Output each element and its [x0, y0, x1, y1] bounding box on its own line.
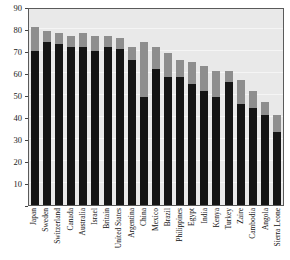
- y-axis-tick-label: 60: [14, 70, 23, 79]
- x-axis-tick-label: Cambodia: [249, 208, 257, 239]
- x-axis-tick: Egypt: [188, 208, 196, 260]
- x-axis-tick: Turkey: [225, 208, 233, 260]
- bar-segment-upper: [237, 80, 245, 104]
- bar-segment-upper: [91, 36, 99, 51]
- x-axis-tick: United States: [115, 208, 123, 260]
- x-axis-tick-label: Argentina: [128, 208, 136, 238]
- bar: [225, 71, 233, 205]
- bar-segment-upper: [116, 38, 124, 49]
- bar-segment-lower: [128, 60, 136, 205]
- bar-segment-lower: [79, 47, 87, 205]
- bar-segment-lower: [188, 84, 196, 205]
- bar-segment-lower: [31, 51, 39, 205]
- bar-segment-lower: [176, 77, 184, 205]
- x-axis-tick: Switzerland: [54, 208, 62, 260]
- bar-segment-upper: [261, 102, 269, 115]
- bar: [116, 38, 124, 205]
- y-axis-tick-label: 30: [14, 136, 23, 145]
- x-axis-tick: Philippines: [176, 208, 184, 260]
- x-axis-tick-label: Brazil: [164, 208, 172, 226]
- x-axis-tick-label: Canada: [67, 208, 75, 231]
- bar-segment-lower: [225, 82, 233, 205]
- bar-segment-lower: [67, 47, 75, 205]
- bar-segment-upper: [176, 60, 184, 78]
- bar: [31, 27, 39, 205]
- x-axis-tick-label: Egypt: [188, 208, 196, 226]
- bar-segment-upper: [140, 42, 148, 97]
- y-axis-tick-label: 40: [14, 114, 23, 123]
- bar-segment-lower: [249, 108, 257, 205]
- x-axis-tick: Cambodia: [249, 208, 257, 260]
- bar: [273, 115, 281, 205]
- bar-segment-upper: [164, 53, 172, 77]
- x-axis-tick-label: Kenya: [213, 208, 221, 228]
- x-axis-tick-label: Japan: [30, 208, 38, 225]
- x-axis-tick-label: Australia: [79, 208, 87, 236]
- bar-segment-upper: [212, 71, 220, 97]
- y-axis-tick-mark: [25, 206, 28, 207]
- bar: [188, 62, 196, 205]
- plot-area: [28, 8, 284, 206]
- bar-segment-lower: [152, 69, 160, 205]
- bar: [152, 47, 160, 205]
- bar-segment-upper: [55, 33, 63, 44]
- y-axis-tick-label: 70: [14, 48, 23, 57]
- bar: [200, 66, 208, 205]
- bar-segment-lower: [104, 47, 112, 205]
- bar-segment-upper: [152, 47, 160, 69]
- x-axis-tick: Mexico: [152, 208, 160, 260]
- bar-segment-upper: [249, 91, 257, 109]
- x-axis-tick-label: Israel: [91, 208, 99, 225]
- bar-segment-upper: [273, 115, 281, 133]
- x-axis-tick: Zaire: [237, 208, 245, 260]
- bar: [212, 71, 220, 205]
- bar: [128, 47, 136, 205]
- x-axis-tick: Sierra Leone: [274, 208, 282, 260]
- bar: [55, 33, 63, 205]
- bar-segment-lower: [91, 51, 99, 205]
- bar-segment-upper: [104, 36, 112, 47]
- bar: [249, 91, 257, 205]
- x-axis-tick: China: [140, 208, 148, 260]
- x-axis-tick-label: Philippines: [176, 208, 184, 242]
- bar: [237, 80, 245, 205]
- x-axis-tick: India: [201, 208, 209, 260]
- x-axis-tick: Kenya: [213, 208, 221, 260]
- bar: [164, 53, 172, 205]
- x-axis-tick: Israel: [91, 208, 99, 260]
- bar-segment-lower: [43, 42, 51, 205]
- bar: [140, 42, 148, 205]
- x-axis-tick-label: Switzerland: [54, 208, 62, 244]
- x-axis-tick-label: Turkey: [225, 208, 233, 229]
- bar-chart: 102030405060708090 JapanSwedenSwitzerlan…: [0, 0, 290, 260]
- y-axis: 102030405060708090: [0, 0, 24, 260]
- bar-segment-lower: [212, 97, 220, 205]
- x-axis-tick: Australia: [79, 208, 87, 260]
- x-axis-tick-label: Mexico: [152, 208, 160, 231]
- x-axis-tick-label: Zaire: [237, 208, 245, 224]
- bar-series-group: [29, 9, 283, 205]
- bar-segment-lower: [116, 49, 124, 205]
- bar: [43, 31, 51, 205]
- y-axis-tick-label: 20: [14, 158, 23, 167]
- bar-segment-lower: [55, 44, 63, 205]
- bar-segment-upper: [79, 33, 87, 46]
- bar-segment-upper: [188, 62, 196, 84]
- x-axis-tick: Canada: [67, 208, 75, 260]
- bar: [67, 36, 75, 205]
- bar: [261, 102, 269, 205]
- x-axis-tick: Sweden: [42, 208, 50, 260]
- x-axis-tick: Angola: [262, 208, 270, 260]
- bar-segment-upper: [67, 36, 75, 47]
- bar-segment-upper: [128, 47, 136, 60]
- x-axis: JapanSwedenSwitzerlandCanadaAustraliaIsr…: [28, 208, 284, 260]
- x-axis-tick: Argentina: [128, 208, 136, 260]
- bar-segment-lower: [164, 77, 172, 205]
- x-axis-tick: Japan: [30, 208, 38, 260]
- x-axis-tick-label: United States: [115, 208, 123, 248]
- x-axis-tick: Britain: [103, 208, 111, 260]
- x-axis-tick-label: Britain: [103, 208, 111, 229]
- x-axis-tick: Brazil: [164, 208, 172, 260]
- bar-segment-lower: [273, 132, 281, 205]
- bar: [104, 36, 112, 205]
